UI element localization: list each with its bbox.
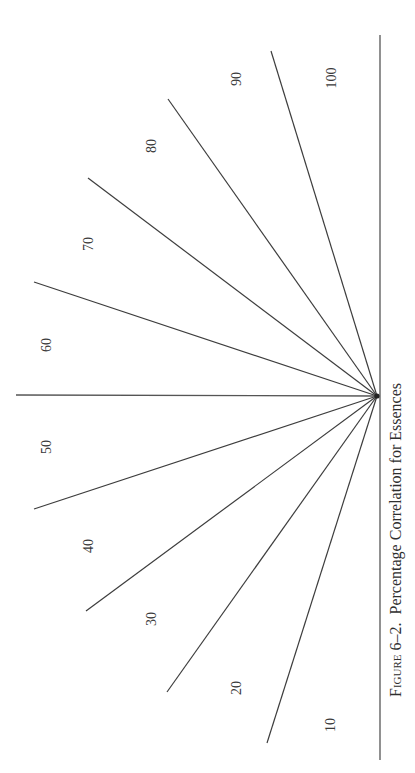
sector-label-90: 90 <box>229 72 244 86</box>
divider-40-50-line <box>34 396 377 509</box>
sector-label-20: 20 <box>229 681 244 695</box>
percentage-correlation-diagram: 10 20 30 40 50 60 70 80 90 100 Figure 6–… <box>0 0 415 773</box>
caption-text: Percentage Correlation for Essences <box>387 383 405 614</box>
divider-80-90-line <box>168 99 377 396</box>
sector-label-50: 50 <box>39 440 54 454</box>
divider-10-20-line <box>267 396 377 743</box>
figure-caption: Figure 6–2. Percentage Correlation for E… <box>387 383 405 697</box>
convergence-point <box>374 393 379 398</box>
divider-20-30-line <box>167 396 377 692</box>
sector-label-70: 70 <box>81 237 96 251</box>
sector-label-80: 80 <box>144 139 159 153</box>
divider-30-40-line <box>86 396 377 611</box>
sector-label-10: 10 <box>323 718 338 732</box>
sector-label-30: 30 <box>144 612 159 626</box>
divider-90-100-line <box>271 51 377 396</box>
divider-70-80-line <box>88 178 377 396</box>
sector-label-100: 100 <box>324 68 339 89</box>
sector-label-40: 40 <box>81 539 96 553</box>
caption-prefix: Figure 6–2. <box>387 622 404 697</box>
divider-60-70-line <box>34 282 377 396</box>
sector-label-60: 60 <box>39 338 54 352</box>
divider-50-line <box>16 395 377 396</box>
